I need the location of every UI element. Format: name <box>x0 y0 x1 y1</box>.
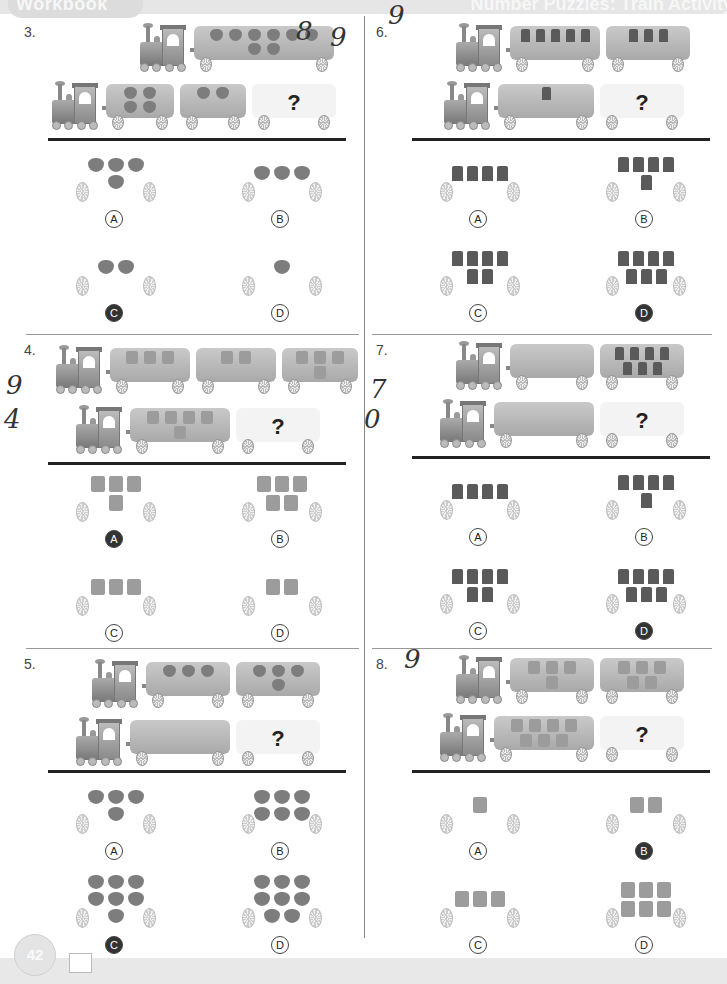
choice-b[interactable]: B <box>606 464 686 548</box>
choice-label-a[interactable]: A <box>469 842 487 860</box>
choice-label-c[interactable]: C <box>105 304 123 322</box>
strawberry-icon <box>88 790 104 804</box>
present-light-icon <box>657 882 671 898</box>
choice-a[interactable]: A <box>440 146 520 230</box>
choice-label-c[interactable]: C <box>469 622 487 640</box>
choice-d[interactable]: D <box>606 872 686 956</box>
present-light-icon <box>547 719 559 732</box>
present-dark-icon <box>663 251 674 266</box>
choice-b[interactable]: B <box>242 146 322 230</box>
problem-number: 7. <box>376 342 388 358</box>
choice-label-c[interactable]: C <box>469 936 487 954</box>
choice-c[interactable]: C <box>440 872 520 956</box>
choice-label-b[interactable]: B <box>271 530 289 548</box>
choice-c[interactable]: C <box>76 240 156 324</box>
choice-d[interactable]: D <box>242 872 322 956</box>
choice-a[interactable]: A <box>440 464 520 548</box>
strawberry-icon <box>248 43 261 55</box>
locomotive-icon <box>436 712 492 762</box>
strawberry-icon <box>128 892 144 906</box>
problem-3: 3.?ABCD89 <box>0 16 364 336</box>
handwritten-answer: 8 <box>296 16 313 46</box>
present-dark-icon <box>656 587 667 602</box>
choice-label-b[interactable]: B <box>635 528 653 546</box>
question-mark: ? <box>252 90 336 116</box>
present-dark-icon <box>641 269 652 284</box>
present-light-icon <box>546 661 558 674</box>
present-light-icon <box>564 661 576 674</box>
choice-a[interactable]: A <box>76 778 156 862</box>
choice-label-c[interactable]: C <box>105 624 123 642</box>
present-dark-icon <box>482 269 493 284</box>
missing-car: ? <box>600 716 684 762</box>
choice-c[interactable]: C <box>76 560 156 644</box>
present-dark-icon <box>626 269 637 284</box>
choice-label-d[interactable]: D <box>635 304 653 322</box>
choice-a[interactable]: A <box>76 146 156 230</box>
choice-label-a[interactable]: A <box>105 842 123 860</box>
choice-label-b[interactable]: B <box>271 842 289 860</box>
choice-b[interactable]: B <box>606 146 686 230</box>
score-box[interactable] <box>69 953 92 973</box>
choice-label-d[interactable]: D <box>635 936 653 954</box>
choice-label-b[interactable]: B <box>635 210 653 228</box>
present-dark-icon <box>633 157 644 172</box>
choice-c[interactable]: C <box>440 240 520 324</box>
choice-d[interactable]: D <box>606 240 686 324</box>
present-dark-icon <box>638 362 647 375</box>
choice-label-c[interactable]: C <box>469 304 487 322</box>
handwritten-answer: 9 <box>6 370 23 400</box>
choice-label-b[interactable]: B <box>635 842 653 860</box>
choice-label-c[interactable]: C <box>105 936 123 954</box>
strawberry-icon <box>197 87 210 99</box>
choice-d[interactable]: D <box>242 560 322 644</box>
present-light-icon <box>314 351 326 364</box>
present-light-icon <box>657 901 671 917</box>
present-light-icon <box>91 579 105 595</box>
choice-b[interactable]: B <box>242 778 322 862</box>
choice-label-d[interactable]: D <box>271 624 289 642</box>
train-car <box>600 658 684 704</box>
choice-label-a[interactable]: A <box>469 210 487 228</box>
choice-a[interactable]: A <box>440 778 520 862</box>
choice-d[interactable]: D <box>242 240 322 324</box>
locomotive-icon <box>72 716 128 766</box>
present-dark-icon <box>467 166 478 181</box>
present-light-icon <box>126 351 138 364</box>
present-dark-icon <box>660 347 669 360</box>
workbook-title: Workbook <box>16 0 108 15</box>
choice-label-a[interactable]: A <box>469 528 487 546</box>
strawberry-icon <box>108 807 124 821</box>
present-light-icon <box>648 797 662 813</box>
strawberry-icon <box>210 29 223 41</box>
choice-b[interactable]: B <box>606 778 686 862</box>
strawberry-icon <box>294 875 310 889</box>
present-light-icon <box>511 719 523 732</box>
present-dark-icon <box>482 251 493 266</box>
strawberry-icon <box>264 909 280 923</box>
strawberry-icon <box>88 158 104 172</box>
choice-label-a[interactable]: A <box>105 210 123 228</box>
strawberry-icon <box>118 260 134 274</box>
choice-label-d[interactable]: D <box>635 622 653 640</box>
missing-car: ? <box>600 402 684 448</box>
choice-label-a[interactable]: A <box>105 530 123 548</box>
track-line <box>412 770 710 773</box>
strawberry-icon <box>267 29 280 41</box>
present-light-icon <box>109 579 123 595</box>
bottom-train: ? <box>48 80 342 130</box>
strawberry-icon <box>163 665 176 677</box>
choice-label-d[interactable]: D <box>271 936 289 954</box>
choice-a[interactable]: A <box>76 466 156 550</box>
train-car <box>606 26 690 72</box>
choice-label-d[interactable]: D <box>271 304 289 322</box>
choice-d[interactable]: D <box>606 558 686 642</box>
bottom-train: ? <box>72 404 326 454</box>
present-dark-icon <box>645 347 654 360</box>
choice-c[interactable]: C <box>76 872 156 956</box>
choice-b[interactable]: B <box>242 466 322 550</box>
strawberry-icon <box>254 892 270 906</box>
choice-label-b[interactable]: B <box>271 210 289 228</box>
present-light-icon <box>618 661 630 674</box>
choice-c[interactable]: C <box>440 558 520 642</box>
